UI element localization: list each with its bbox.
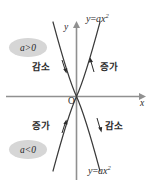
equation-bottom-exponent: 2 — [108, 164, 111, 171]
annotation-decrease-upper-left: 감소 — [32, 62, 49, 72]
origin-label: O — [68, 97, 75, 107]
annotation-increase-lower-left: 증가 — [32, 121, 49, 131]
graph-canvas — [0, 0, 152, 189]
badge-a-negative: a<0 — [9, 140, 47, 159]
badge-a-positive-value: 0 — [31, 43, 36, 53]
annotation-decrease-lower-right: 감소 — [105, 121, 122, 131]
arrow-decrease-lower-right — [97, 118, 102, 133]
badge-a-positive: a>0 — [9, 38, 47, 57]
y-axis-label: y — [64, 23, 68, 33]
equation-label-top: y=ax2 — [86, 14, 109, 24]
x-axis-label: x — [140, 99, 144, 109]
equation-bottom-rhs: ax — [98, 165, 107, 176]
quadratic-graph-figure: y=ax2 y=ax2 y x O 감소 증가 증가 감소 a>0 a<0 — [0, 0, 152, 189]
equation-label-bottom: y=ax2 — [88, 166, 111, 176]
equation-top-rhs: ax — [96, 13, 105, 24]
badge-a-negative-value: 0 — [31, 145, 36, 155]
annotation-increase-upper-right: 증가 — [100, 62, 117, 72]
equation-top-exponent: 2 — [106, 12, 109, 19]
